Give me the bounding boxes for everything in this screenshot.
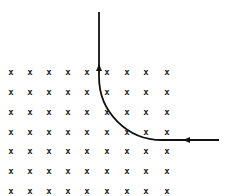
- field-x-mark: x: [124, 146, 130, 156]
- field-x-mark: x: [143, 67, 149, 77]
- field-marks: xxxxxxxxxxxxxxxxxxxxxxxxxxxxxxxxxxxxxxxx…: [8, 67, 170, 196]
- field-x-mark: x: [46, 146, 52, 156]
- field-x-mark: x: [124, 67, 130, 77]
- field-x-mark: x: [65, 87, 71, 97]
- field-x-mark: x: [27, 107, 33, 117]
- field-x-mark: x: [8, 87, 14, 97]
- field-x-mark: x: [143, 146, 149, 156]
- field-x-mark: x: [8, 166, 14, 176]
- field-x-mark: x: [84, 107, 90, 117]
- field-x-mark: x: [84, 166, 90, 176]
- field-x-mark: x: [8, 186, 14, 196]
- field-x-mark: x: [8, 67, 14, 77]
- field-x-mark: x: [46, 67, 52, 77]
- field-x-mark: x: [164, 146, 170, 156]
- field-x-mark: x: [124, 107, 130, 117]
- field-x-mark: x: [65, 67, 71, 77]
- field-x-mark: x: [65, 107, 71, 117]
- field-x-mark: x: [46, 107, 52, 117]
- field-x-mark: x: [8, 146, 14, 156]
- field-x-mark: x: [84, 127, 90, 137]
- field-x-mark: x: [104, 127, 110, 137]
- field-x-mark: x: [104, 186, 110, 196]
- particle-trajectory: [99, 12, 219, 140]
- field-x-mark: x: [27, 127, 33, 137]
- field-x-mark: x: [84, 67, 90, 77]
- field-x-mark: x: [27, 186, 33, 196]
- magnetic-field-diagram: xxxxxxxxxxxxxxxxxxxxxxxxxxxxxxxxxxxxxxxx…: [0, 0, 225, 196]
- field-x-mark: x: [84, 146, 90, 156]
- field-x-mark: x: [104, 87, 110, 97]
- field-x-mark: x: [46, 87, 52, 97]
- field-x-mark: x: [143, 107, 149, 117]
- field-x-mark: x: [27, 67, 33, 77]
- field-x-mark: x: [104, 67, 110, 77]
- field-x-mark: x: [164, 67, 170, 77]
- field-x-mark: x: [164, 166, 170, 176]
- field-x-mark: x: [104, 146, 110, 156]
- field-x-mark: x: [65, 127, 71, 137]
- field-x-mark: x: [143, 186, 149, 196]
- field-x-mark: x: [27, 166, 33, 176]
- field-x-mark: x: [65, 166, 71, 176]
- field-x-mark: x: [164, 107, 170, 117]
- field-x-mark: x: [164, 127, 170, 137]
- field-x-mark: x: [65, 146, 71, 156]
- field-x-mark: x: [65, 186, 71, 196]
- field-x-mark: x: [46, 186, 52, 196]
- field-x-mark: x: [46, 127, 52, 137]
- field-x-mark: x: [46, 166, 52, 176]
- arrow-left-icon: [183, 137, 190, 143]
- field-x-mark: x: [104, 166, 110, 176]
- field-x-mark: x: [124, 186, 130, 196]
- field-x-mark: x: [143, 166, 149, 176]
- field-x-mark: x: [143, 127, 149, 137]
- field-x-mark: x: [8, 127, 14, 137]
- field-x-mark: x: [164, 87, 170, 97]
- field-x-mark: x: [124, 87, 130, 97]
- field-x-mark: x: [143, 87, 149, 97]
- field-x-mark: x: [8, 107, 14, 117]
- field-x-mark: x: [84, 87, 90, 97]
- field-x-mark: x: [164, 186, 170, 196]
- arrow-up-icon: [96, 64, 102, 71]
- field-x-mark: x: [27, 146, 33, 156]
- field-x-mark: x: [27, 87, 33, 97]
- field-x-mark: x: [124, 166, 130, 176]
- field-x-mark: x: [84, 186, 90, 196]
